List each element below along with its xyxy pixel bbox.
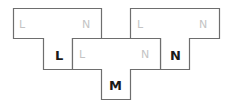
piece-top-left-label-right: N [82,18,90,31]
piece-top-left-label-left: L [19,18,26,31]
tile-puzzle-diagram: L N L L N N L N M [0,0,229,104]
piece-middle-label-stem: M [109,78,122,93]
piece-middle-label-right: N [141,48,149,61]
piece-top-right-label-right: N [199,18,207,31]
piece-top-right-label-left: L [137,18,144,31]
piece-top-left-label-stem: L [55,48,63,63]
piece-top-right-label-stem: N [170,48,181,63]
piece-middle: L N M [73,39,161,100]
piece-middle-label-left: L [79,48,86,61]
